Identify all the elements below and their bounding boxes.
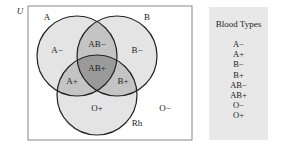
region-a-negative: A− — [51, 45, 63, 55]
region-b-negative: B− — [131, 45, 142, 55]
universe-label: U — [17, 6, 24, 16]
legend-item: O− — [209, 100, 268, 110]
set-b-label: B — [144, 12, 150, 22]
set-a-label: A — [44, 12, 51, 22]
legend-item: A+ — [209, 49, 268, 59]
region-o-negative: O− — [159, 103, 171, 113]
legend-item: AB+ — [209, 90, 268, 100]
legend-item: B+ — [209, 70, 268, 80]
region-b-positive: B+ — [117, 76, 128, 86]
region-o-positive: O+ — [91, 103, 103, 113]
venn-diagram: U A B Rh A− AB− B− AB+ A+ B+ O+ O− — [0, 0, 200, 150]
blood-types-legend: Blood Types A− A+ B− B+ AB− AB+ O− O+ — [209, 7, 268, 140]
legend-list: A− A+ B− B+ AB− AB+ O− O+ — [209, 39, 268, 121]
legend-item: A− — [209, 39, 268, 49]
legend-item: AB− — [209, 80, 268, 90]
set-rh-label: Rh — [132, 118, 143, 128]
region-a-positive: A+ — [66, 76, 78, 86]
region-ab-positive: AB+ — [88, 63, 106, 73]
legend-item: O+ — [209, 110, 268, 120]
region-ab-negative: AB− — [88, 39, 106, 49]
legend-title: Blood Types — [209, 19, 268, 29]
legend-item: B− — [209, 59, 268, 69]
